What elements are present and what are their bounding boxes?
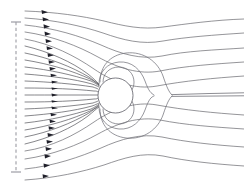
- streamline-figure: [0, 0, 244, 188]
- flow-diagram-canvas: [0, 0, 244, 188]
- central-circular-body: [98, 78, 133, 113]
